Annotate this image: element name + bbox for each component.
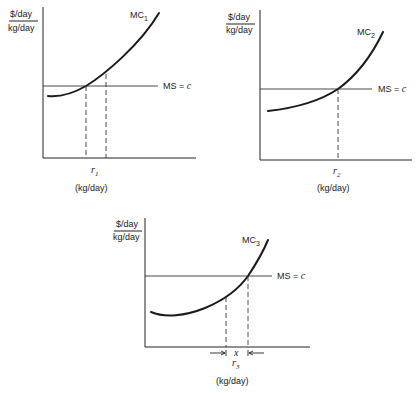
chart-3: $/day kg/day MS = c MC3 x r3 (kg/day) <box>113 218 310 386</box>
chart-1: $/day kg/day MS = c MC1 r1 (kg/day) <box>8 7 196 193</box>
economics-diagrams: $/day kg/day MS = c MC1 r1 (kg/day) $/da… <box>0 0 417 393</box>
x-axis-label: (kg/day) <box>317 183 350 193</box>
axes <box>145 218 310 347</box>
ms-label: MS = c <box>378 83 407 94</box>
x-tick-label: r2 <box>333 165 341 179</box>
chart-2: $/day kg/day MS = c MC2 r2 (kg/day) <box>226 10 412 193</box>
y-label-bottom: kg/day <box>113 232 140 242</box>
curve-label: MC1 <box>130 10 148 22</box>
curve-label: MC3 <box>242 235 260 247</box>
mc3-curve <box>151 240 268 315</box>
y-label-top: $/day <box>116 219 139 229</box>
x-axis-label: (kg/day) <box>75 183 108 193</box>
x-tick-label: r3 <box>232 357 240 371</box>
x-axis-label: (kg/day) <box>216 376 249 386</box>
y-label-top: $/day <box>228 12 251 22</box>
curve-label: MC2 <box>357 27 375 39</box>
x-tick-label: r1 <box>91 164 98 178</box>
y-label-top: $/day <box>10 9 33 19</box>
y-label-bottom: kg/day <box>8 23 35 33</box>
mc1-curve <box>48 13 159 96</box>
mc2-curve <box>268 32 383 111</box>
ms-label: MS = c <box>163 80 192 91</box>
y-label-bottom: kg/day <box>226 25 253 35</box>
ms-label: MS = c <box>277 270 306 281</box>
